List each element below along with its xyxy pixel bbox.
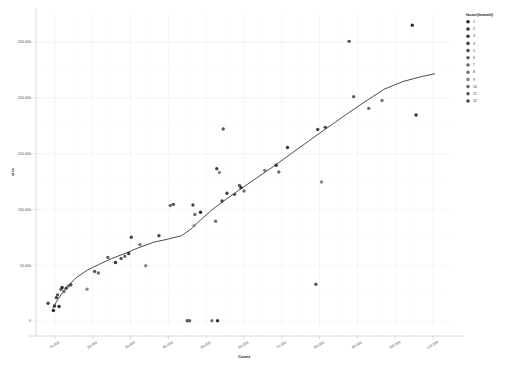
plot-background (0, 0, 511, 366)
data-point (199, 211, 202, 214)
legend-entry-label[interactable]: 9 (473, 78, 475, 82)
data-point (380, 99, 383, 102)
y-tick-label: 250,000 (18, 40, 31, 44)
legend-entry-label[interactable]: 12 (473, 99, 477, 103)
data-point (169, 204, 172, 207)
legend-entry-label[interactable]: 7 (473, 63, 475, 67)
legend-key-swatch[interactable] (466, 20, 470, 24)
data-point (69, 283, 72, 286)
legend-key-swatch[interactable] (466, 42, 470, 46)
data-point (352, 95, 355, 98)
data-point (210, 319, 213, 322)
data-point (130, 236, 133, 239)
data-point (93, 270, 96, 273)
data-point (316, 128, 319, 131)
legend-entry-label[interactable]: 8 (473, 70, 475, 74)
legend-entry-label[interactable]: 10 (473, 85, 477, 89)
data-point (218, 171, 221, 174)
data-point (57, 305, 60, 308)
legend-entry-label[interactable]: 4 (473, 42, 475, 46)
legend-entry-label[interactable]: 2 (473, 27, 475, 31)
data-point (85, 288, 88, 291)
legend-key-swatch[interactable] (466, 85, 470, 89)
legend-entry-label[interactable]: 1 (473, 20, 475, 24)
data-point (222, 127, 225, 130)
data-point (191, 203, 194, 206)
data-point (157, 234, 160, 237)
data-point (214, 219, 217, 222)
data-point (277, 170, 280, 173)
data-point (263, 169, 266, 172)
data-point (114, 261, 117, 264)
data-point (97, 271, 100, 274)
legend-entry-label[interactable]: 3 (473, 34, 475, 38)
data-point (192, 224, 195, 227)
data-point (220, 199, 223, 202)
data-point (188, 319, 191, 322)
x-axis-title: Count (238, 354, 251, 359)
legend-entry-label[interactable]: 5 (473, 49, 475, 53)
legend-title: factor(branch) (466, 12, 494, 17)
y-tick-label: 200,000 (18, 96, 31, 100)
legend-key-swatch[interactable] (466, 78, 470, 82)
y-tick-label: 100,000 (18, 208, 31, 212)
data-point (286, 146, 289, 149)
legend-entry-label[interactable]: 6 (473, 56, 475, 60)
y-tick-label: 0 (29, 319, 31, 323)
data-point (225, 192, 228, 195)
data-point (53, 304, 56, 307)
data-point (52, 309, 55, 312)
y-tick-label: 50,000 (20, 264, 31, 268)
data-point (56, 293, 59, 296)
data-point (414, 113, 417, 116)
data-point (127, 252, 130, 255)
data-point (242, 189, 245, 192)
data-point (119, 257, 122, 260)
legend-key-swatch[interactable] (466, 99, 470, 103)
legend-key-swatch[interactable] (466, 63, 470, 67)
data-point (123, 255, 126, 258)
data-point (239, 186, 242, 189)
legend-key-swatch[interactable] (466, 49, 470, 53)
data-point (193, 213, 196, 216)
data-point (46, 302, 49, 305)
data-point (233, 193, 236, 196)
data-point (320, 180, 323, 183)
data-point (144, 264, 147, 267)
data-point (106, 256, 109, 259)
data-point (314, 283, 317, 286)
data-point (138, 243, 141, 246)
data-point (367, 107, 370, 110)
data-point (274, 164, 277, 167)
data-point (347, 40, 350, 43)
scatter-plot: 10,00020,00030,00040,00050,00060,00070,0… (0, 0, 511, 366)
legend-key-swatch[interactable] (466, 34, 470, 38)
chart-canvas: 10,00020,00030,00040,00050,00060,00070,0… (0, 0, 511, 366)
y-axis-title: size (10, 167, 15, 176)
legend-key-swatch[interactable] (466, 56, 470, 60)
data-point (60, 286, 63, 289)
data-point (215, 167, 218, 170)
legend-key-swatch[interactable] (466, 92, 470, 96)
y-tick-label: 150,000 (18, 152, 31, 156)
legend-entry-label[interactable]: 11 (473, 92, 477, 96)
data-point (62, 290, 65, 293)
legend-key-swatch[interactable] (466, 70, 470, 74)
data-point (216, 319, 219, 322)
data-point (411, 23, 414, 26)
legend-key-swatch[interactable] (466, 27, 470, 31)
data-point (324, 126, 327, 129)
data-point (172, 203, 175, 206)
